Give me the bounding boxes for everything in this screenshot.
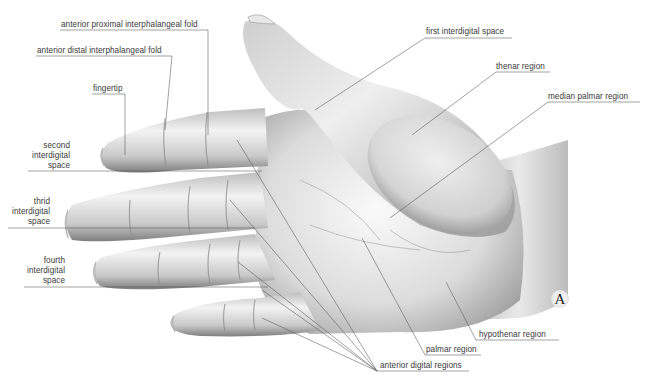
hand-illustration [0,0,649,389]
finger-middle [66,172,268,241]
label-third-interdigital-space: thrid interdigital space [0,197,50,227]
label-fourth-interdigital-space: fourth interdigital space [14,256,65,286]
finger-ring [94,234,275,289]
label-first-interdigital-space: first interdigital space [426,27,504,37]
label-line: space [0,217,50,227]
label-line: thrid [0,197,50,207]
label-hypothenar-region: hypothenar region [479,330,546,340]
label-fingertip: fingertip [93,84,123,94]
label-anterior-distal-interphalangeal-fold: anterior distal interphalangeal fold [37,46,162,56]
plate-letter: A [551,290,569,308]
label-line: interdigital [0,207,50,217]
label-line: space [20,161,70,171]
label-line: space [14,276,65,286]
label-line: interdigital [14,266,65,276]
finger-little [170,292,320,336]
label-palmar-region: palmar region [426,345,477,355]
label-anterior-digital-regions: anterior digital regions [380,361,462,371]
label-line: second [20,141,70,151]
label-thenar-region: thenar region [496,62,545,72]
label-second-interdigital-space: second interdigital space [20,141,70,171]
label-line: fourth [14,256,65,266]
anatomy-figure: anterior proximal interphalangeal fold a… [0,0,649,389]
label-median-palmar-region: median palmar region [548,92,628,102]
finger-index [101,108,268,173]
thumbnail [248,15,275,24]
label-line: interdigital [20,151,70,161]
label-anterior-proximal-interphalangeal-fold: anterior proximal interphalangeal fold [61,20,198,30]
